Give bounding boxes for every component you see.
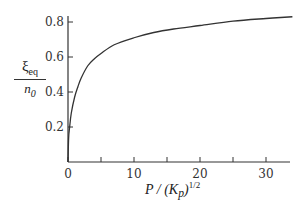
x-tick-label: 0 xyxy=(64,167,72,181)
ticks: 01020300.20.40.60.8 xyxy=(45,15,274,181)
data-curve xyxy=(68,17,292,162)
y-tick-label: 0.4 xyxy=(45,85,64,99)
y-axis-label-denominator: n0 xyxy=(14,80,46,99)
y-axis-label-numerator: ξeq xyxy=(14,58,46,80)
y-tick-label: 0.2 xyxy=(45,120,64,134)
x-tick-label: 20 xyxy=(192,167,207,181)
x-tick-label: 30 xyxy=(258,167,273,181)
axes xyxy=(68,16,290,162)
y-tick-label: 0.6 xyxy=(45,50,64,64)
y-axis-label: ξeq n0 xyxy=(14,58,46,99)
y-tick-label: 0.8 xyxy=(45,15,64,29)
x-tick-label: 10 xyxy=(126,167,141,181)
series-line xyxy=(68,17,292,162)
x-axis-label: P / (Kp)1/2 xyxy=(145,180,200,200)
